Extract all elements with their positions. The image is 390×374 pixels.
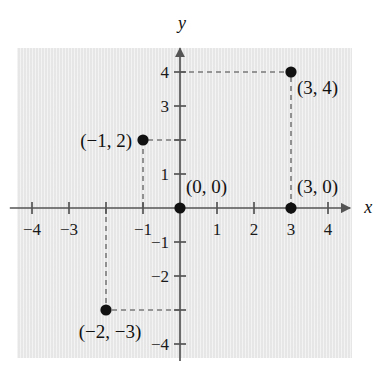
x-axis-label: x	[364, 198, 372, 216]
y-axis-label: y	[178, 14, 186, 32]
y-tick-label--1: −1	[151, 234, 169, 251]
x-tick-label-2: 2	[250, 221, 259, 238]
y-tick-label-4: 4	[161, 64, 170, 81]
coordinate-plane-figure: −4−3−11234431−1−2−4 (0, 0)(3, 0)(3, 4)(−…	[0, 0, 390, 374]
point-label-point-neg2-neg3: (−2, −3)	[79, 322, 142, 341]
point-marker-point-neg1-2	[137, 134, 148, 145]
point-marker-point-3-4	[285, 66, 296, 77]
point-label-x-intercept: (3, 0)	[297, 177, 338, 196]
y-tick-label--2: −2	[151, 268, 169, 285]
y-tick-label-3: 3	[161, 98, 170, 115]
x-tick-label--3: −3	[60, 221, 78, 238]
point-marker-origin	[174, 202, 185, 213]
y-tick-label-1: 1	[161, 166, 170, 183]
point-marker-x-intercept	[285, 202, 296, 213]
point-marker-point-neg2-neg3	[100, 304, 111, 315]
x-tick-label--1: −1	[134, 221, 152, 238]
x-tick-label-1: 1	[213, 221, 222, 238]
point-label-point-3-4: (3, 4)	[297, 78, 338, 97]
point-label-point-neg1-2: (−1, 2)	[80, 131, 132, 150]
x-tick-label--4: −4	[23, 221, 41, 238]
x-tick-label-4: 4	[324, 221, 333, 238]
x-tick-label-3: 3	[287, 221, 296, 238]
y-tick-label--4: −4	[151, 336, 169, 353]
point-label-origin: (0, 0)	[186, 177, 227, 196]
